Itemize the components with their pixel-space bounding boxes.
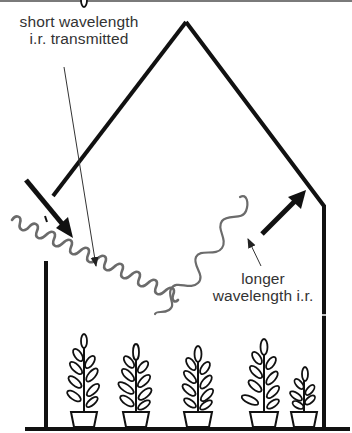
roof-left [53,22,186,196]
incoming-arrow-icon [26,180,73,238]
plant-4 [240,339,281,427]
greenhouse-diagram [0,0,352,433]
short-wavelength-label-line1: short wavelength [7,13,151,30]
longer-wavelength-label: longer wavelength i.r. [205,270,321,304]
plant-2 [117,344,154,427]
longer-wavelength-label-line2: wavelength i.r. [205,287,321,304]
plant-3 [181,346,216,427]
plant-5 [289,367,317,427]
short-wavelength-label-line2: i.r. transmitted [7,30,151,47]
glass-mark [45,216,47,222]
longer-wavelength-label-line1: longer [205,270,321,287]
short-wavelength-label: short wavelength i.r. transmitted [7,13,151,47]
plant-1 [65,0,101,427]
long-label-leader [248,239,261,266]
short-label-leader [64,67,96,266]
reflected-arrow-icon [262,190,306,234]
